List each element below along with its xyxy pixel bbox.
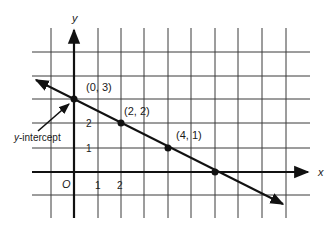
line-series-forward [74, 99, 283, 204]
annotation-arrow [38, 104, 69, 131]
point-0-3 [71, 96, 78, 103]
point-label-4-1: (4, 1) [176, 129, 202, 141]
point-2-2 [118, 120, 125, 127]
annotation-y-intercept: y-intercept [13, 132, 61, 143]
y-tick-2: 2 [86, 118, 92, 129]
origin-label: O [62, 178, 71, 190]
point-label-0-3: (0, 3) [86, 81, 112, 93]
x-tick-1: 1 [95, 180, 101, 191]
line-series [36, 80, 74, 99]
y-tick-1: 1 [86, 143, 92, 154]
point-6-0 [212, 169, 219, 176]
coordinate-plane: x y O 1 2 1 2 (0, 3) (2, 2) (4, 1) y-int… [0, 0, 332, 230]
x-axis-label: x [317, 166, 324, 178]
point-label-2-2: (2, 2) [124, 105, 150, 117]
y-axis-label: y [71, 12, 79, 24]
point-4-1 [165, 145, 172, 152]
x-tick-2: 2 [117, 180, 123, 191]
